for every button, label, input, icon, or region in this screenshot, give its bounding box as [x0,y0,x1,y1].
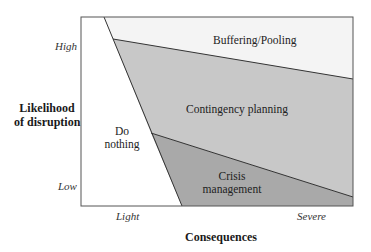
x-tick-light: Light [116,210,139,222]
label-buffering-pooling: Buffering/Pooling [213,34,296,47]
x-axis-title: Consequences [185,230,257,244]
y-axis-title-line1: Likelihood [14,101,80,115]
label-do-nothing-line2: nothing [100,138,144,151]
y-tick-high: High [55,40,77,52]
disruption-strategy-diagram: High Low Likelihood of disruption Light … [0,0,371,252]
label-crisis-management: Crisis management [197,170,267,196]
label-crisis-line1: Crisis [197,170,267,183]
y-tick-low: Low [58,180,77,192]
label-crisis-line2: management [197,183,267,196]
x-tick-severe: Severe [297,210,326,222]
label-contingency-planning: Contingency planning [186,103,288,116]
y-axis-title: Likelihood of disruption [14,101,80,129]
label-do-nothing-line1: Do [100,125,144,138]
label-do-nothing: Do nothing [100,125,144,151]
y-axis-title-line2: of disruption [14,115,80,129]
